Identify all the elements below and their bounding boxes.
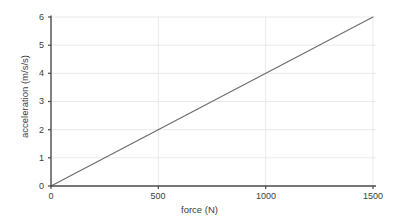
x-tick-label-1000: 1000 xyxy=(246,191,286,201)
x-tick-label-500: 500 xyxy=(138,191,178,201)
y-axis-title-container: acceleration (m/s/s) xyxy=(16,0,32,192)
x-tick-label-0: 0 xyxy=(31,191,71,201)
x-tick-label-1500: 1500 xyxy=(353,191,393,201)
chart-figure: 6 5 4 3 2 1 0 0 500 1000 1500 force (N) … xyxy=(0,0,399,224)
x-axis-title: force (N) xyxy=(0,204,399,215)
y-axis-title: acceleration (m/s/s) xyxy=(19,55,30,138)
